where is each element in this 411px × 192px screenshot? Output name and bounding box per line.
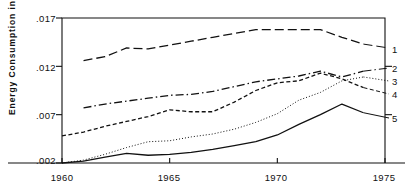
y-axis-tick-label-007: .007 [22,110,56,121]
axis-ticks [56,18,392,163]
x-axis-tick-label-1970: 1970 [256,172,296,183]
series-line-4 [62,73,363,136]
series-label-4: 4 [392,89,397,100]
y-axis-title: Energy Consumption in Tcals [7,0,17,115]
series-line-2 [84,71,364,108]
axis-frame [8,18,405,163]
y-axis-tick-label-012: .012 [22,62,56,73]
series-label-2: 2 [392,63,397,74]
y-axis-tick-label-002: .002 [22,155,56,166]
series-label-3: 3 [392,76,397,87]
series-label-5: 5 [392,113,397,124]
data-lines [62,30,363,163]
plot-area [0,0,411,192]
x-axis-tick-label-1965: 1965 [149,172,189,183]
x-axis-tick-label-1975: 1975 [364,172,404,183]
series-label-1: 1 [392,44,397,55]
series-line-1 [84,30,364,61]
line-chart-figure: Energy Consumption in Tcals .017 .012 .0… [0,0,411,192]
x-axis-tick-label-1960: 1960 [42,172,82,183]
y-axis-tick-label-017: .017 [22,13,56,24]
series-line-5 [62,104,363,163]
